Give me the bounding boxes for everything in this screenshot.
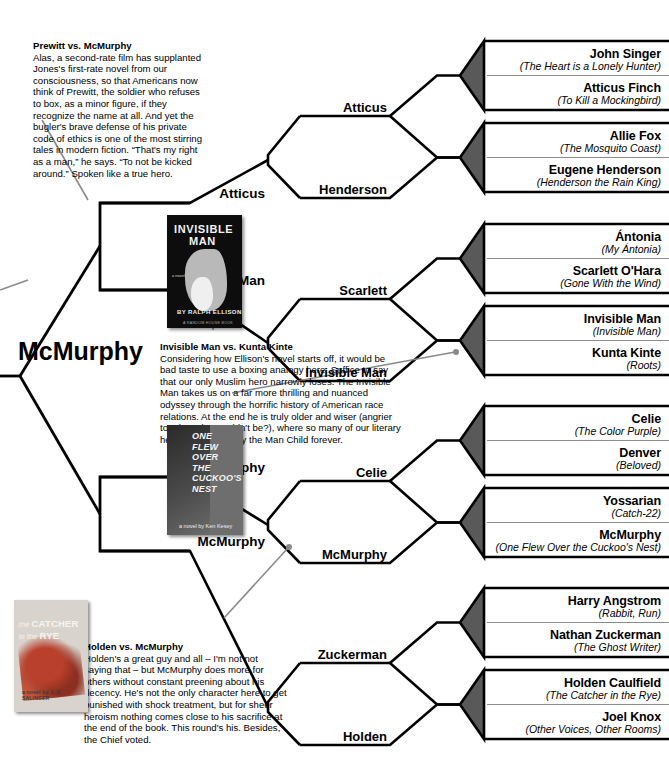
leaf-8: Kunta Kinte (Roots) <box>489 347 661 371</box>
leaf-book: (Beloved) <box>489 460 661 471</box>
cover-title-line2: MAN <box>189 235 216 247</box>
leaf-5: Ántonia (My Ántonia) <box>489 231 661 255</box>
note-prewitt-vs-mcmurphy: Prewitt vs. McMurphy Alas, a second-rate… <box>33 40 209 179</box>
round3-label-4: McMurphy <box>120 534 265 549</box>
note-body: Alas, a second-rate film has supplanted … <box>33 52 209 180</box>
leaf-book: (Catch-22) <box>489 508 661 519</box>
leaf-book: (The Color Purple) <box>489 426 661 437</box>
leaf-1: John Singer (The Heart is a Lonely Hunte… <box>489 48 661 72</box>
leaf-14: Nathan Zuckerman (The Ghost Writer) <box>489 629 661 653</box>
book-cover-cuckoos-nest: ONE FLEW OVER THE CUCKOO'S NEST a novel … <box>167 425 243 535</box>
leaf-2: Atticus Finch (To Kill a Mockingbird) <box>489 82 661 106</box>
cover-publisher: A RANDOM HOUSE BOOK <box>183 321 233 325</box>
cover-title-catcher: CATCHER <box>31 618 78 629</box>
cover-title: the CATCHER in the RYE <box>19 618 79 642</box>
note-heading: Holden vs. McMurphy <box>84 641 288 653</box>
leaf-9: Celie (The Color Purple) <box>489 413 661 437</box>
leaf-10: Denver (Beloved) <box>489 447 661 471</box>
leaf-book: (Invisible Man) <box>489 326 661 337</box>
leaf-book: (The Catcher in the Rye) <box>469 690 661 701</box>
leaf-book: (My Ántonia) <box>489 244 661 255</box>
leaf-book: (One Flew Over the Cuckoo's Nest) <box>449 542 661 553</box>
round2-label-5: Celie <box>250 465 387 480</box>
cover-title-line1: INVISIBLE <box>174 223 233 235</box>
note-holden-vs-mcmurphy: Holden vs. McMurphy Holden's a great guy… <box>84 641 288 745</box>
leaf-book: (To Kill a Mockingbird) <box>489 95 661 106</box>
cover-author: a novel by J. D. SALINGER <box>22 689 88 701</box>
leaf-13: Harry Angstrom (Rabbit, Run) <box>489 595 661 619</box>
cover-artwork-highlight <box>191 277 213 311</box>
round2-label-1: Atticus <box>250 100 387 115</box>
leaf-book: (The Heart is a Lonely Hunter) <box>489 61 661 72</box>
leaf-11: Yossarian (Catch-22) <box>489 495 661 519</box>
root-champion-label: McMurphy <box>18 337 143 366</box>
round3-label-1: Atticus <box>120 186 265 201</box>
note-heading: Invisible Man vs. Kunta Kinte <box>160 341 402 353</box>
leaf-book: (Other Voices, Other Rooms) <box>469 724 661 735</box>
cover-title-the: the <box>19 621 31 628</box>
leaf-book: (Rabbit, Run) <box>489 608 661 619</box>
note-body: Holden's a great guy and all – I'm not n… <box>84 653 288 746</box>
leaf-12: McMurphy (One Flew Over the Cuckoo's Nes… <box>449 529 661 553</box>
leaf-16: Joel Knox (Other Voices, Other Rooms) <box>469 711 661 735</box>
leaf-book: (Roots) <box>489 360 661 371</box>
leaf-4: Eugene Henderson (Henderson the Rain Kin… <box>489 164 661 188</box>
leaf-3: Allie Fox (The Mosquito Coast) <box>489 130 661 154</box>
cover-title-rye: RYE <box>39 630 59 641</box>
leaf-6: Scarlett O'Hara (Gone With the Wind) <box>489 265 661 289</box>
book-cover-invisible-man: INVISIBLE MAN a novel BY RALPH ELLISON A… <box>167 215 242 328</box>
leaf-7: Invisible Man (Invisible Man) <box>489 313 661 337</box>
cover-author: a novel by Ken Kesey <box>179 523 232 529</box>
leaf-15: Holden Caulfield (The Catcher in the Rye… <box>469 677 661 701</box>
leaf-book: (Henderson the Rain King) <box>489 177 661 188</box>
leaf-book: (Gone With the Wind) <box>489 278 661 289</box>
book-cover-catcher-in-the-rye: the CATCHER in the RYE a novel by J. D. … <box>14 600 88 712</box>
round2-label-3: Scarlett <box>250 283 387 298</box>
cover-title-in: in the <box>19 633 39 640</box>
round2-label-2: Henderson <box>250 182 387 197</box>
note-heading: Prewitt vs. McMurphy <box>33 40 209 52</box>
round2-label-6: McMurphy <box>250 547 387 562</box>
cover-author: BY RALPH ELLISON <box>177 309 242 315</box>
cover-subtitle: a novel <box>172 273 185 278</box>
bracket-diagram: McMurphy Atticus Invisible Man McMurphy … <box>0 0 669 767</box>
leaf-book: (The Ghost Writer) <box>489 642 661 653</box>
cover-title: ONE FLEW OVER THE CUCKOO'S NEST <box>192 431 238 494</box>
leaf-book: (The Mosquito Coast) <box>489 143 661 154</box>
